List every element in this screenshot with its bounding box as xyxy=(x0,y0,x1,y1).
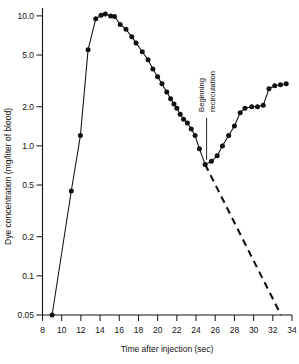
annotation-text-line-2: recirculation xyxy=(208,71,217,112)
data-point xyxy=(272,83,277,88)
dye-dilution-chart-figure: 0.050.10.20.51.02.05.010.0 Dye concentra… xyxy=(0,0,299,364)
data-point xyxy=(103,11,108,16)
data-point xyxy=(226,133,231,138)
y-tick-label: 2.0 xyxy=(22,102,34,112)
y-tick-label: 5.0 xyxy=(22,50,34,60)
data-point xyxy=(249,104,254,109)
data-point xyxy=(129,34,134,39)
data-point xyxy=(112,14,117,19)
x-tick-label: 26 xyxy=(210,325,220,335)
data-point xyxy=(220,143,225,148)
data-point xyxy=(266,86,271,91)
x-tick-label: 14 xyxy=(95,325,105,335)
x-tick-label: 12 xyxy=(76,325,86,335)
x-tick-label: 30 xyxy=(249,325,259,335)
data-point xyxy=(189,126,194,131)
y-tick-label: 0.1 xyxy=(22,271,34,281)
data-point xyxy=(86,47,91,52)
x-tick-label: 24 xyxy=(191,325,201,335)
data-point xyxy=(146,57,151,62)
data-point xyxy=(118,22,123,27)
data-point xyxy=(238,110,243,115)
data-point xyxy=(50,313,55,318)
x-tick-label: 28 xyxy=(230,325,240,335)
data-point xyxy=(174,106,179,111)
y-axis: 0.050.10.20.51.02.05.010.0 Dye concentra… xyxy=(3,8,43,320)
data-point xyxy=(93,16,98,21)
x-axis-title: Time after injection (sec) xyxy=(121,344,214,354)
y-tick-label: 0.5 xyxy=(22,180,34,190)
extrapolated-decay-line xyxy=(205,164,281,315)
chart-canvas: 0.050.10.20.51.02.05.010.0 Dye concentra… xyxy=(0,0,299,364)
data-point xyxy=(284,81,289,86)
data-point xyxy=(215,153,220,158)
x-tick-label: 22 xyxy=(172,325,182,335)
y-tick-label: 10.0 xyxy=(17,11,34,21)
data-point xyxy=(255,104,260,109)
y-tick-label: 0.2 xyxy=(22,232,34,242)
annotation-text-line-1: Beginning xyxy=(197,78,206,112)
data-point xyxy=(242,106,247,111)
data-point xyxy=(261,103,266,108)
data-point xyxy=(193,133,198,138)
data-point xyxy=(78,133,83,138)
data-point xyxy=(123,27,128,32)
data-point xyxy=(155,74,160,79)
data-point xyxy=(69,188,74,193)
data-point xyxy=(159,81,164,86)
x-tick-label: 8 xyxy=(40,325,45,335)
data-point xyxy=(278,82,283,87)
data-point xyxy=(209,159,214,164)
y-axis-ticks xyxy=(37,16,43,315)
y-tick-label: 0.05 xyxy=(17,310,34,320)
data-point xyxy=(171,101,176,106)
data-point xyxy=(134,40,139,45)
x-tick-label: 16 xyxy=(115,325,125,335)
data-point xyxy=(197,146,202,151)
data-point xyxy=(232,124,237,129)
data-point xyxy=(168,96,173,101)
data-point xyxy=(203,162,208,167)
data-point xyxy=(178,112,183,117)
x-tick-label: 32 xyxy=(268,325,278,335)
y-axis-tick-labels: 0.050.10.20.51.02.05.010.0 xyxy=(17,11,34,320)
x-axis-ticks xyxy=(43,315,293,321)
x-tick-label: 34 xyxy=(287,325,297,335)
x-tick-label: 20 xyxy=(153,325,163,335)
data-point xyxy=(164,89,169,94)
data-point xyxy=(140,49,145,54)
data-point xyxy=(99,13,104,18)
dye-concentration-curve xyxy=(52,14,286,315)
data-point xyxy=(181,117,186,122)
data-point-markers xyxy=(50,11,289,317)
y-tick-label: 1.0 xyxy=(22,141,34,151)
data-point xyxy=(150,67,155,72)
x-axis-tick-labels: 810121416182022242628303234 xyxy=(40,325,297,335)
x-tick-label: 10 xyxy=(57,325,67,335)
data-point xyxy=(185,120,190,125)
y-axis-title: Dye concentration (mg/liter of blood) xyxy=(3,108,13,245)
x-axis: 810121416182022242628303234 Time after i… xyxy=(40,315,297,354)
x-tick-label: 18 xyxy=(134,325,144,335)
